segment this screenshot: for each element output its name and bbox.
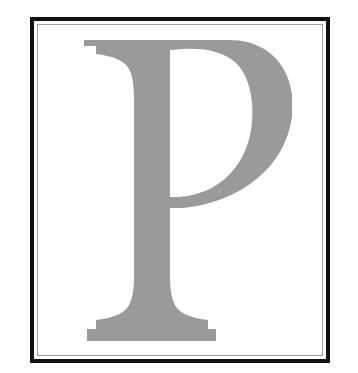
frame-grey-hairline [37, 24, 323, 356]
image-canvas [0, 0, 358, 373]
capital-letter-p [82, 37, 292, 355]
frame-white-gap [34, 21, 326, 359]
frame-outer-black-border [30, 17, 330, 363]
frame-interior-plate [38, 25, 322, 355]
glyph-container [38, 25, 322, 355]
